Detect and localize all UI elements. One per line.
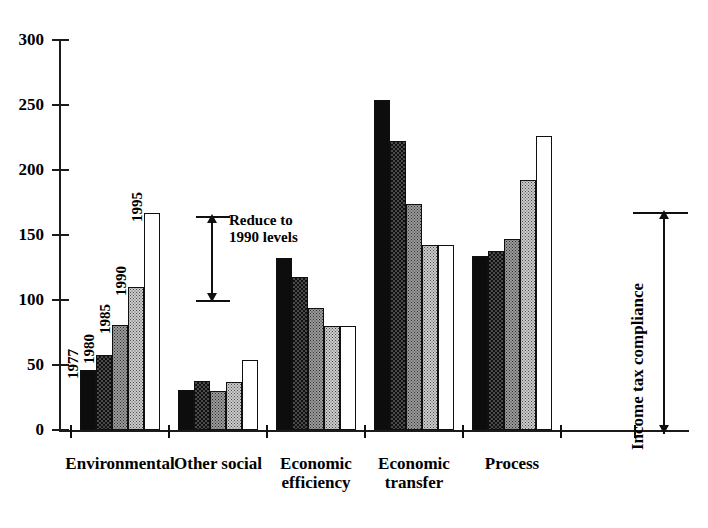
bar[interactable]	[96, 355, 112, 430]
category-label: Process	[442, 454, 582, 473]
bar[interactable]	[144, 213, 160, 430]
y-tick-label: 250	[0, 96, 44, 113]
series-year-label: 1985	[98, 304, 113, 334]
reduce-annotation-text: Reduce to 1990 levels	[229, 212, 349, 247]
bar[interactable]	[422, 245, 438, 430]
series-year-label: 1980	[82, 334, 97, 364]
bar[interactable]	[374, 100, 390, 430]
bar[interactable]	[80, 370, 96, 430]
series-year-label: 1977	[66, 349, 81, 379]
bar[interactable]	[194, 381, 210, 430]
bar[interactable]	[390, 141, 406, 430]
bar-group	[374, 40, 454, 430]
income-tax-annotation-text: Income tax compliance	[628, 283, 648, 450]
x-axis-line	[59, 430, 689, 432]
bar-group	[80, 40, 160, 430]
bar[interactable]	[226, 382, 242, 430]
bar[interactable]	[488, 251, 504, 430]
bar[interactable]	[504, 239, 520, 430]
bar[interactable]	[210, 391, 226, 430]
y-tick-label: 0	[0, 421, 44, 438]
bar[interactable]	[112, 325, 128, 430]
bar[interactable]	[128, 287, 144, 430]
y-tick-label: 300	[0, 31, 44, 48]
y-tick-label: 150	[0, 226, 44, 243]
bar[interactable]	[520, 180, 536, 430]
bar[interactable]	[178, 390, 194, 430]
chart-figure: 300250200150100500 EnvironmentalOther so…	[0, 0, 708, 528]
bar[interactable]	[406, 204, 422, 430]
y-tick-label: 200	[0, 161, 44, 178]
bar[interactable]	[340, 326, 356, 430]
y-tick-label: 100	[0, 291, 44, 308]
bar[interactable]	[324, 326, 340, 430]
bar[interactable]	[242, 360, 258, 430]
bar[interactable]	[536, 136, 552, 430]
bar[interactable]	[292, 277, 308, 430]
plot-area	[60, 40, 640, 430]
y-tick-label: 50	[0, 356, 44, 373]
series-year-label: 1990	[114, 266, 129, 296]
bar[interactable]	[308, 308, 324, 430]
bar[interactable]	[438, 245, 454, 430]
bar-group	[472, 40, 552, 430]
bar[interactable]	[472, 256, 488, 430]
bar[interactable]	[276, 258, 292, 430]
series-year-label: 1995	[130, 192, 145, 222]
